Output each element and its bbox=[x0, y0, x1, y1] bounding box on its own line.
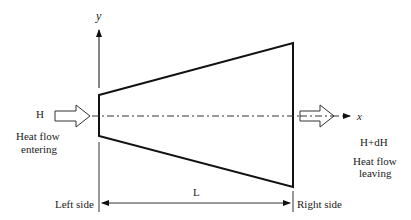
left-side-label: Left side bbox=[55, 198, 94, 210]
outlet-caption-line2: leaving bbox=[359, 167, 392, 179]
inlet-caption-line2: entering bbox=[21, 143, 58, 155]
y-axis-label: y bbox=[95, 9, 102, 23]
heat-inlet-arrow-icon bbox=[55, 105, 90, 127]
outlet-caption-line1: Heat flow bbox=[353, 155, 397, 167]
inlet-symbol: H bbox=[36, 108, 44, 120]
outlet-symbol: H+dH bbox=[360, 136, 388, 148]
inlet-caption-line1: Heat flow bbox=[16, 130, 60, 142]
right-side-label: Right side bbox=[297, 198, 342, 210]
fin-diagram: y x H Heat flow entering H+dH Heat flow … bbox=[0, 0, 411, 220]
x-axis-label: x bbox=[356, 110, 362, 122]
y-axis: y bbox=[95, 9, 102, 88]
length-label: L bbox=[193, 186, 200, 198]
fin-body bbox=[99, 43, 293, 187]
length-dimension: L bbox=[101, 186, 291, 206]
